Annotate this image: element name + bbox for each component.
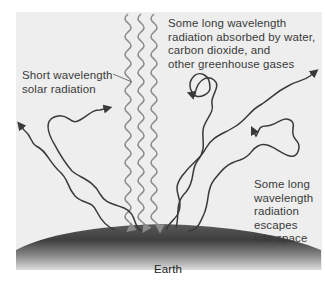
longwave-absorbed-loop bbox=[176, 74, 217, 228]
escapes-into-space-label: Some long wavelength radiation escapes i… bbox=[254, 178, 313, 246]
solar-wave-3 bbox=[151, 14, 160, 229]
earth-label: Earth bbox=[154, 263, 182, 277]
longwave-escape-left-1 bbox=[20, 125, 115, 230]
short-wavelength-label: Short wavelength solar radiation bbox=[22, 69, 112, 96]
solar-wave-1 bbox=[125, 14, 132, 229]
absorbed-radiation-label: Some long wavelength radiation absorbed … bbox=[168, 17, 315, 71]
short-wave-solar-radiation bbox=[125, 14, 160, 229]
solar-wave-2 bbox=[138, 14, 146, 229]
